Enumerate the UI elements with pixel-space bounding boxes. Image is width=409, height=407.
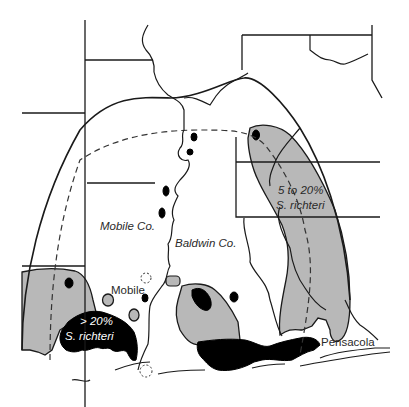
- zone-high-label-line2: S. richteri: [65, 330, 114, 343]
- baldwin-county-label: Baldwin Co.: [175, 237, 236, 250]
- pensacola-city-label: Pensacola: [321, 336, 375, 349]
- island-shape: [166, 276, 180, 286]
- map-figure: Mobile Co. Baldwin Co. Mobile Pensacola …: [0, 0, 409, 407]
- zone-mid-label-line1: 5 to 20%: [278, 184, 323, 197]
- mobile-city-label: Mobile: [111, 284, 145, 297]
- mobile-county-label: Mobile Co.: [100, 220, 155, 233]
- zone-high-label-line1: > 20%: [80, 315, 113, 328]
- zone-mid-label-line2: S. richteri: [276, 199, 325, 212]
